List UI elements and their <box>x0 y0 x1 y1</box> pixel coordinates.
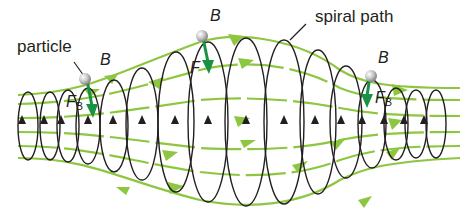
force-arrow-right-icon <box>361 94 373 108</box>
spiral-arrow-icon <box>280 115 288 124</box>
b-field-label-left: B <box>100 52 111 68</box>
spiral-arrow-icon <box>171 115 179 124</box>
particle-right-icon <box>365 70 377 82</box>
spiral-arrow-icon <box>204 115 212 124</box>
force-subscript: B <box>76 100 83 112</box>
force-label-left: FB <box>66 94 83 110</box>
spiral-arrow-icon <box>138 115 146 124</box>
spiral-path-label: spiral path <box>315 8 393 25</box>
particle-label: particle <box>17 38 72 55</box>
force-label-center: F <box>190 60 200 76</box>
spiral-arrow-icon <box>18 115 26 124</box>
b-field-label-center: B <box>210 8 221 24</box>
force-symbol: F <box>375 89 385 106</box>
spiral-arrow-icon <box>337 115 345 124</box>
spiral-arrow-icon <box>311 115 319 124</box>
field-arrow-icon <box>116 187 130 195</box>
spiral-arrow-icon <box>358 115 366 124</box>
spiral-arrow-icon <box>400 115 408 124</box>
spiral-arrow-icon <box>57 115 65 124</box>
spiral-arrow-icon <box>109 115 117 124</box>
spiral-arrow-icon <box>380 115 388 124</box>
field-arrow-icon <box>388 118 402 130</box>
spiral-arrow-icon <box>40 115 48 124</box>
field-arrow-icon <box>240 140 256 148</box>
field-arrow-icon <box>358 196 372 208</box>
field-line-bottom <box>18 158 460 205</box>
particle-left-icon <box>79 73 91 85</box>
b-field-label-right: B <box>378 50 389 66</box>
field-line-3 <box>18 98 460 118</box>
spiral-path-leader-line <box>290 24 306 40</box>
field-arrow-icon <box>162 150 178 161</box>
force-subscript: B <box>385 96 392 108</box>
particle-center-icon <box>196 30 208 42</box>
magnetic-bottle-diagram <box>0 0 469 222</box>
field-line-4 <box>18 132 460 149</box>
force-label-right: FB <box>375 90 392 106</box>
force-symbol: F <box>66 93 76 110</box>
